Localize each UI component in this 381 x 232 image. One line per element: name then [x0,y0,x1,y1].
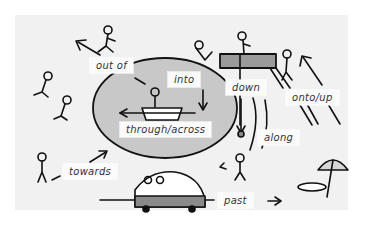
boat-icon [142,108,182,120]
label-onto-up: onto/up [286,90,339,105]
bridge-icon [220,54,276,68]
label-through-across: through/across [120,122,211,137]
label-into: into [168,72,200,87]
label-past: past [218,193,253,208]
label-down: down [226,80,266,95]
label-along: along [258,130,299,145]
sunbather-icon [298,183,326,191]
illustration [0,0,381,232]
label-towards: towards [63,164,117,179]
label-out-of: out of [90,58,133,73]
